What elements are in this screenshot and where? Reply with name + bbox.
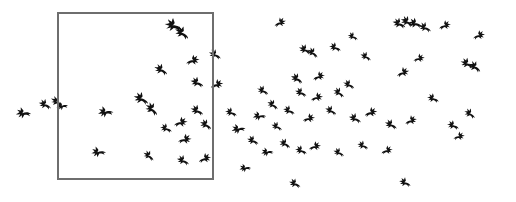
bird-silhouette xyxy=(452,131,465,141)
bird-silhouette xyxy=(37,97,53,110)
bird-silhouette xyxy=(246,134,261,146)
bird-silhouette xyxy=(348,112,363,125)
bird-silhouette xyxy=(90,145,106,158)
birds-layer xyxy=(15,14,486,190)
bird-silhouette xyxy=(332,86,347,100)
selection-rectangle[interactable] xyxy=(58,13,213,179)
bird-silhouette xyxy=(359,50,373,62)
bird-silhouette xyxy=(418,21,433,34)
bird-silhouette xyxy=(347,31,360,42)
bird-silhouette xyxy=(173,116,188,128)
bird-silhouette xyxy=(356,139,370,150)
bird-silhouette xyxy=(398,176,412,188)
bird-silhouette xyxy=(383,117,399,131)
bird-silhouette xyxy=(463,107,478,121)
bird-silhouette xyxy=(132,90,151,107)
bird-silhouette xyxy=(252,109,267,121)
bird-silhouette xyxy=(15,106,32,119)
bird-silhouette xyxy=(289,71,305,85)
bird-silhouette xyxy=(282,104,296,116)
bird-silhouette xyxy=(342,78,357,91)
bird-silhouette xyxy=(412,53,425,63)
bird-silhouette xyxy=(395,66,410,79)
bird-silhouette xyxy=(312,70,326,82)
bird-silhouette xyxy=(256,84,271,97)
bird-silhouette xyxy=(408,17,423,29)
bird-silhouette xyxy=(288,177,303,189)
bird-silhouette xyxy=(310,91,324,102)
bird-silhouette xyxy=(278,137,293,150)
bird-silhouette xyxy=(197,152,212,165)
bird-silhouette xyxy=(426,92,440,104)
bird-silhouette xyxy=(198,117,214,131)
bird-silhouette xyxy=(472,29,486,40)
bird-silhouette xyxy=(270,120,284,132)
bird-silhouette xyxy=(273,16,288,28)
bird-silhouette xyxy=(308,140,322,151)
bird-silhouette xyxy=(230,122,246,136)
bird-flock-illustration xyxy=(0,0,516,202)
bird-silhouette xyxy=(141,148,156,162)
bird-silhouette xyxy=(332,146,346,158)
bird-silhouette xyxy=(238,162,251,173)
bird-silhouette xyxy=(159,122,173,134)
bird-silhouette xyxy=(380,145,393,156)
bird-silhouette xyxy=(189,103,205,117)
bird-silhouette xyxy=(363,106,378,118)
bird-silhouette xyxy=(97,104,114,118)
bird-silhouette xyxy=(438,19,452,31)
bird-silhouette xyxy=(176,154,191,167)
bird-silhouette xyxy=(177,133,192,145)
bird-silhouette xyxy=(324,104,339,117)
bird-silhouette xyxy=(266,97,281,111)
bird-silhouette xyxy=(209,78,224,90)
bird-silhouette xyxy=(207,47,223,61)
bird-silhouette xyxy=(302,113,315,124)
bird-silhouette xyxy=(224,106,238,118)
bird-silhouette xyxy=(294,86,309,98)
bird-silhouette xyxy=(185,54,200,66)
flock-canvas xyxy=(0,0,516,202)
bird-silhouette xyxy=(55,100,68,111)
bird-silhouette xyxy=(328,41,342,53)
bird-silhouette xyxy=(189,75,205,89)
bird-silhouette xyxy=(446,119,460,131)
bird-silhouette xyxy=(143,100,162,118)
bird-silhouette xyxy=(404,114,418,126)
bird-silhouette xyxy=(153,62,170,77)
bird-silhouette xyxy=(260,146,274,158)
bird-silhouette xyxy=(294,144,308,156)
